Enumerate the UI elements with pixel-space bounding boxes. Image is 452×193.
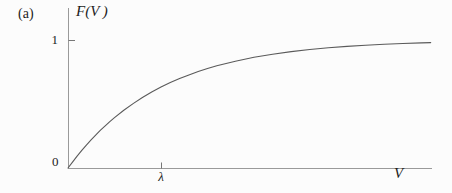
y-tick-label-1: 1 bbox=[44, 33, 58, 46]
plot-canvas bbox=[0, 0, 452, 193]
figure-panel-a: (a) F(V ) 1 0 λ V bbox=[0, 0, 452, 193]
origin-label: 0 bbox=[52, 155, 59, 168]
cdf-curve bbox=[68, 43, 431, 168]
x-tick-label-lambda: λ bbox=[153, 170, 169, 183]
x-axis-title: V bbox=[394, 166, 403, 181]
y-axis-title: F(V ) bbox=[76, 4, 108, 19]
panel-label: (a) bbox=[18, 7, 34, 21]
